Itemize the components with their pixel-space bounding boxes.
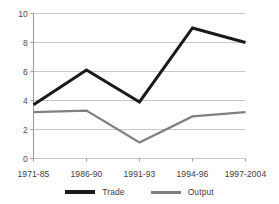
y-axis-tick-label: 8 bbox=[8, 39, 28, 40]
series-line-trade bbox=[34, 28, 246, 105]
y-axis-tick-label: 0 bbox=[8, 155, 28, 156]
line-chart: 0246810 1971-851986-901991-931994-961997… bbox=[0, 0, 279, 204]
y-axis-tick-text: 8 bbox=[8, 39, 28, 48]
y-axis-tick-label: 10 bbox=[8, 10, 28, 11]
legend-item-trade[interactable]: Trade bbox=[65, 188, 124, 197]
y-axis-tick-label: 2 bbox=[8, 126, 28, 127]
y-axis-tick-text: 2 bbox=[8, 126, 28, 135]
x-axis-category-text: 1994-96 bbox=[177, 169, 209, 179]
y-axis-tick-label: 4 bbox=[8, 97, 28, 98]
legend-swatch-icon bbox=[65, 190, 95, 194]
series-line-output bbox=[34, 111, 246, 143]
plot-area: 0246810 1971-851986-901991-931994-961997… bbox=[0, 0, 279, 180]
y-axis-tick-text: 4 bbox=[8, 97, 28, 106]
legend-swatch-icon bbox=[151, 191, 181, 194]
x-axis-category-label: 1991-93 bbox=[110, 163, 170, 181]
x-axis-category-label: 1971-85 bbox=[4, 163, 64, 181]
x-axis-category-text: 1986-90 bbox=[71, 169, 103, 179]
x-axis-category-label: 1994-96 bbox=[163, 163, 223, 181]
legend-label: Trade bbox=[102, 188, 124, 197]
series-lines bbox=[34, 28, 246, 143]
legend-label: Output bbox=[188, 188, 214, 197]
x-axis-category-text: 1971-85 bbox=[18, 169, 50, 179]
axis-lines bbox=[31, 14, 246, 162]
plot-svg bbox=[0, 0, 279, 180]
y-axis-tick-text: 10 bbox=[8, 10, 28, 19]
legend-item-output[interactable]: Output bbox=[151, 188, 214, 197]
x-axis-category-text: 1997-2004 bbox=[225, 169, 267, 179]
y-axis-tick-text: 0 bbox=[8, 155, 28, 164]
x-axis-category-label: 1986-90 bbox=[57, 163, 117, 181]
y-axis-tick-text: 6 bbox=[8, 68, 28, 77]
x-axis-category-label: 1997-2004 bbox=[216, 163, 276, 181]
y-axis-tick-label: 6 bbox=[8, 68, 28, 69]
x-axis-category-text: 1991-93 bbox=[124, 169, 156, 179]
chart-legend: TradeOutput bbox=[0, 184, 279, 200]
